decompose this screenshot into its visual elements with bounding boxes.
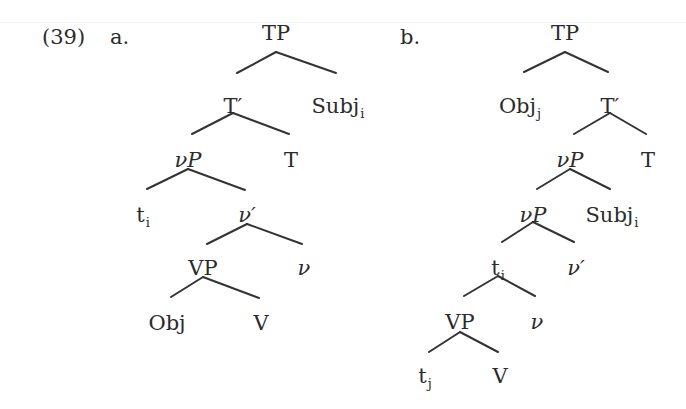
tree-b-node-V: V <box>492 366 507 387</box>
tree-a-edge-vbar-v <box>247 224 302 244</box>
tree-a-node-Obj: Obj <box>148 313 185 334</box>
tree-a-node-v: ν <box>298 258 311 279</box>
node-label: VP <box>188 256 217 280</box>
node-label: TP <box>262 21 290 45</box>
node-label: T′ <box>224 94 243 118</box>
tree-a-node-Tbar: T′ <box>224 96 243 117</box>
node-index-subscript: i <box>146 215 150 230</box>
tree-a-node-vbar: ν′ <box>238 205 256 226</box>
node-label: t <box>136 203 144 227</box>
tree-a-node-T: T <box>284 150 298 171</box>
node-label: Subj <box>311 94 359 118</box>
node-label: V <box>253 311 268 335</box>
tree-a-node-vP: νP <box>175 150 202 171</box>
node-label: Obj <box>499 94 536 118</box>
tree-b-node-vP1: νP <box>557 150 584 171</box>
tree-b-node-Obj: Objj <box>499 96 541 120</box>
tree-b-node-Subj: Subji <box>585 205 638 229</box>
tree-a-edge-VP-V <box>203 277 259 298</box>
node-label: t <box>418 364 426 388</box>
tree-a-edge-vP-vbar <box>188 169 245 190</box>
tree-b-node-VP: VP <box>445 312 474 333</box>
tree-b-node-Tbar: T′ <box>601 96 620 117</box>
tree-b-node-ti: ti <box>491 258 505 282</box>
tree-b-edge-TP-Obj <box>524 52 565 72</box>
node-label: VP <box>445 310 474 334</box>
tree-b-edge-VP-tj <box>429 332 460 352</box>
tree-a-node-VP: VP <box>188 258 217 279</box>
node-index-subscript: j <box>428 376 432 391</box>
tree-a-edge-VP-Obj <box>171 277 203 297</box>
tree-b-node-tj: tj <box>418 366 431 390</box>
tree-b-node-vP2: νP <box>520 205 547 226</box>
tree-b-edge-vP1-vP2 <box>537 169 570 189</box>
node-label: Subj <box>585 203 633 227</box>
node-index-subscript: i <box>501 268 505 283</box>
tree-a-edge-TP-Subj <box>276 52 336 73</box>
node-label: T <box>641 148 655 172</box>
tree-b-node-vbar: ν′ <box>567 258 585 279</box>
tree-b-node-T: T <box>641 150 655 171</box>
node-index-subscript: j <box>537 106 541 121</box>
tree-edges <box>0 0 686 409</box>
tree-a-node-V: V <box>253 313 268 334</box>
node-label: T <box>284 148 298 172</box>
node-label: ν <box>531 310 544 334</box>
tree-a-node-ti: ti <box>136 205 150 229</box>
node-label: TP <box>551 21 579 45</box>
tree-a-node-TP: TP <box>262 23 290 44</box>
tree-a-edge-vP-ti <box>147 169 188 189</box>
node-label: νP <box>175 148 202 172</box>
node-index-subscript: i <box>360 106 364 121</box>
tree-a-node-Subj: Subji <box>311 96 364 120</box>
tree-b-edge-vP1-Subj <box>570 169 610 189</box>
node-label: Obj <box>148 311 185 335</box>
tree-a-edge-vbar-VP <box>207 224 247 244</box>
tree-b-node-v: ν <box>531 312 544 333</box>
tree-a-edge-TP-Tbar <box>237 52 276 73</box>
tree-b-edge-TP-Tbar <box>565 52 608 72</box>
node-index-subscript: i <box>634 215 638 230</box>
node-label: ν′ <box>567 256 585 280</box>
node-label: T′ <box>601 94 620 118</box>
node-label: V <box>492 364 507 388</box>
node-label: νP <box>520 203 547 227</box>
tree-b-node-TP: TP <box>551 23 579 44</box>
node-label: ν′ <box>238 203 256 227</box>
tree-b-edge-VP-V <box>460 332 498 352</box>
node-label: νP <box>557 148 584 172</box>
node-label: t <box>491 256 499 280</box>
node-label: ν <box>298 256 311 280</box>
